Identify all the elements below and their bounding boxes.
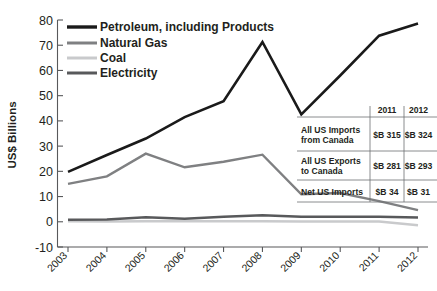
- table-header-2011: 2011: [378, 105, 397, 115]
- y-tick-label: 50: [39, 89, 53, 103]
- y-tick-label: 80: [39, 14, 53, 28]
- y-tick-label: 40: [39, 114, 53, 128]
- y-tick-label: -10: [35, 241, 53, 255]
- y-axis-ticks: -1001020304050607080: [35, 14, 63, 255]
- legend-label-3: Electricity: [100, 66, 158, 80]
- table-header-2012: 2012: [409, 105, 428, 115]
- legend-label-1: Natural Gas: [100, 36, 168, 50]
- table-row-label-2-line1: Net US Imports: [301, 187, 363, 197]
- table-row-label-1-line1: All US Exports: [301, 156, 361, 166]
- x-tick-label: 2004: [83, 249, 108, 274]
- x-tick-label: 2009: [278, 249, 303, 274]
- table-cell-2-2011: $B 34: [376, 187, 399, 197]
- x-tick-label: 2007: [200, 249, 225, 274]
- table-cell-1-2011: $B 281: [373, 161, 401, 171]
- table-row-label-0-line2: from Canada: [301, 135, 354, 145]
- table-row-label-1-line2: to Canada: [301, 166, 343, 176]
- y-axis-label-text: US$ Billions: [6, 101, 18, 168]
- y-axis: -1001020304050607080: [35, 14, 63, 255]
- y-tick-label: 0: [46, 215, 53, 229]
- y-tick-label: 10: [39, 190, 53, 204]
- series-line-coal: [68, 221, 418, 225]
- chart-container: US$ Billions -1001020304050607080 200320…: [0, 0, 437, 291]
- table-cell-0-2011: $B 315: [373, 130, 401, 140]
- table-row-label-0-line1: All US Imports: [301, 125, 360, 135]
- x-axis: 2003200420052006200720082009201020112012: [44, 247, 428, 274]
- y-tick-label: 30: [39, 140, 53, 154]
- y-axis-label: US$ Billions: [6, 101, 18, 168]
- table-cell-2-2012: $B 31: [407, 187, 430, 197]
- legend-label-2: Coal: [100, 51, 126, 65]
- table-cell-0-2012: $B 324: [405, 130, 433, 140]
- x-tick-label: 2008: [239, 249, 264, 274]
- y-tick-label: 20: [39, 165, 53, 179]
- series-line-electricity: [68, 215, 418, 220]
- x-tick-label: 2012: [394, 249, 419, 274]
- x-tick-label: 2006: [161, 249, 186, 274]
- table-cell-1-2012: $B 293: [405, 161, 433, 171]
- energy-trade-line-chart: US$ Billions -1001020304050607080 200320…: [0, 0, 437, 291]
- x-tick-label: 2010: [317, 249, 342, 274]
- inset-summary-table: 20112012All US Importsfrom Canada$B 315$…: [297, 105, 437, 202]
- x-axis-ticks: 2003200420052006200720082009201020112012: [44, 247, 419, 274]
- y-tick-label: 60: [39, 64, 53, 78]
- y-tick-label: 70: [39, 39, 53, 53]
- legend-label-0: Petroleum, including Products: [100, 20, 274, 34]
- x-tick-label: 2005: [122, 249, 147, 274]
- x-tick-label: 2011: [356, 249, 381, 274]
